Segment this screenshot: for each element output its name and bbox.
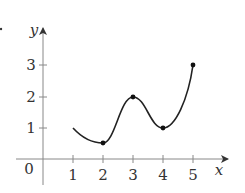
- x-tick-label-2: 2: [98, 166, 108, 184]
- point-4-1: [161, 126, 166, 131]
- x-tick-label-3: 3: [128, 166, 138, 184]
- y-tick-label-3: 3: [26, 56, 36, 74]
- function-curve: [73, 65, 193, 143]
- point-5-3: [191, 63, 196, 68]
- point-3-2: [131, 95, 136, 100]
- margin-dot: [0, 28, 2, 30]
- origin-label: 0: [24, 160, 34, 178]
- y-axis-label: y: [29, 21, 39, 39]
- y-tick-label-2: 2: [26, 88, 36, 106]
- graph: 0 1 2 3 4 5 1 2 3 x y: [0, 0, 245, 193]
- x-axis-label: x: [215, 161, 224, 179]
- point-2-0.5: [101, 141, 106, 146]
- x-tick-label-4: 4: [158, 166, 168, 184]
- x-tick-label-1: 1: [68, 166, 78, 184]
- y-tick-label-1: 1: [26, 119, 36, 137]
- x-tick-label-5: 5: [188, 166, 198, 184]
